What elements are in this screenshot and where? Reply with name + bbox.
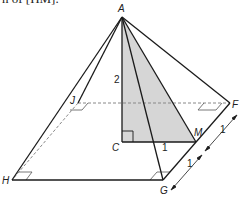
label-h: H <box>2 175 10 186</box>
label-m: M <box>194 127 203 138</box>
label-a: A <box>117 3 125 14</box>
edge-ah <box>12 17 122 180</box>
right-angle-f <box>198 103 222 110</box>
measure-ac: 2 <box>114 74 120 85</box>
label-c: C <box>112 142 120 153</box>
label-f: F <box>232 99 239 110</box>
measure-cm: 1 <box>162 142 168 153</box>
pyramid-diagram: A J F H G C M 2 1 1 1 <box>0 0 241 197</box>
label-j: J <box>69 95 76 106</box>
measure-mg: 1 <box>187 158 193 169</box>
dashed-edge-jh <box>12 103 78 180</box>
right-angle-h <box>19 172 32 180</box>
edge-aj <box>78 17 122 103</box>
measure-fm: 1 <box>220 124 226 135</box>
label-g: G <box>160 185 168 196</box>
